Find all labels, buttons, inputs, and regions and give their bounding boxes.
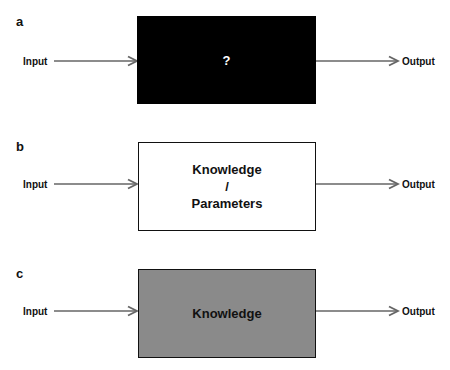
input-label-a: Input — [23, 56, 47, 67]
box-text-b-line3: Parameters — [192, 195, 263, 212]
box-text-b-line2: / — [225, 178, 229, 195]
box-text-a: ? — [223, 52, 231, 69]
gray-box: Knowledge — [138, 269, 316, 358]
black-box: ? — [137, 16, 316, 104]
output-label-a: Output — [402, 56, 435, 67]
input-label-c: Input — [23, 306, 47, 317]
output-label-c: Output — [402, 306, 435, 317]
white-box: Knowledge / Parameters — [138, 142, 316, 231]
box-text-c: Knowledge — [192, 305, 261, 322]
panel-label-b: b — [16, 139, 24, 154]
panel-label-c: c — [16, 266, 23, 281]
output-label-b: Output — [402, 179, 435, 190]
box-text-b-line1: Knowledge — [192, 161, 261, 178]
panel-label-a: a — [16, 14, 23, 29]
input-label-b: Input — [23, 179, 47, 190]
